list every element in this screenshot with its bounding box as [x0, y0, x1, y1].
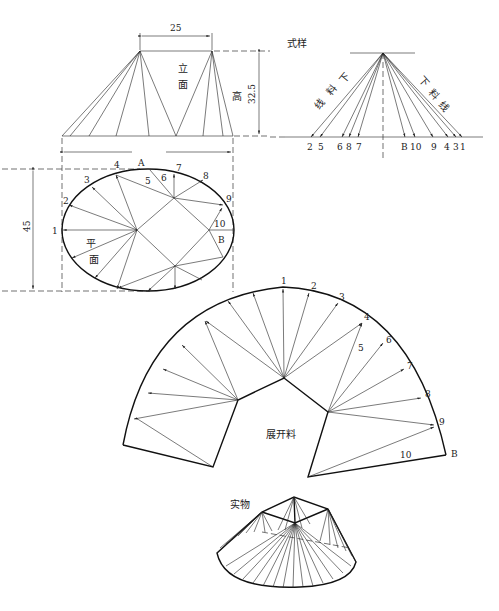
plan-title-2: 面: [89, 254, 99, 265]
svg-text:6: 6: [337, 142, 343, 152]
svg-text:4: 4: [364, 312, 370, 322]
development-pattern: 1 2 3 4 5 6 7 8 9 10 B 展开料: [123, 276, 458, 477]
svg-text:5: 5: [318, 142, 324, 152]
dim-height: 32.5: [247, 84, 257, 104]
svg-text:2: 2: [311, 281, 317, 291]
svg-text:1: 1: [460, 142, 466, 152]
svg-text:10: 10: [400, 450, 412, 460]
svg-text:6: 6: [386, 335, 392, 345]
svg-text:B: B: [401, 142, 408, 152]
plan-title-1: 平: [86, 238, 96, 249]
svg-text:8: 8: [425, 389, 431, 399]
plan-point-labels: 1 2 3 4 A 5 6 7 8 9 10 B: [52, 158, 232, 245]
true-length-title: 式样: [287, 37, 307, 49]
svg-text:8: 8: [346, 142, 352, 152]
right-cut-label-1: 下: [417, 74, 432, 89]
svg-text:9: 9: [431, 142, 437, 152]
svg-text:7: 7: [176, 163, 182, 173]
sheet-metal-development-drawing: 25 32.5 立 面 高 式样: [0, 0, 499, 611]
left-cut-label-1: 下: [337, 71, 352, 86]
svg-text:8: 8: [203, 171, 209, 181]
development-title: 展开料: [266, 428, 296, 440]
true-length-diagram: 式样 下 料 线 下 料 线 2 5 6 8 7 B: [270, 37, 483, 160]
svg-text:B: B: [218, 235, 225, 245]
svg-text:2: 2: [63, 196, 69, 206]
object-title: 实物: [230, 498, 250, 510]
left-cut-label-2: 料: [323, 82, 339, 97]
object-3d-view: 实物: [217, 497, 356, 588]
svg-text:1: 1: [52, 226, 58, 236]
svg-text:5: 5: [145, 176, 151, 186]
svg-text:10: 10: [214, 219, 226, 229]
height-label: 高: [232, 90, 242, 102]
svg-text:B: B: [451, 449, 458, 459]
svg-text:10: 10: [410, 142, 422, 152]
svg-text:A: A: [137, 158, 145, 168]
right-cut-label-3: 线: [437, 98, 453, 113]
right-cut-label-2: 料: [427, 86, 443, 101]
dim-depth: 45: [22, 220, 32, 232]
svg-text:6: 6: [161, 173, 167, 183]
svg-text:1: 1: [281, 276, 287, 286]
elevation-view: 25 32.5 立 面 高: [62, 23, 270, 292]
elevation-title-2: 面: [178, 79, 188, 90]
svg-text:9: 9: [439, 417, 445, 427]
svg-text:5: 5: [358, 343, 364, 353]
svg-text:7: 7: [407, 361, 413, 371]
svg-text:3: 3: [453, 142, 459, 152]
plan-view: 45: [2, 158, 234, 291]
svg-text:7: 7: [356, 142, 362, 152]
svg-text:4: 4: [114, 160, 120, 170]
svg-text:3: 3: [339, 292, 345, 302]
dim-top-width: 25: [170, 23, 182, 33]
svg-text:2: 2: [307, 142, 313, 152]
elevation-title-1: 立: [178, 62, 188, 74]
svg-text:4: 4: [444, 142, 450, 152]
left-cut-label-3: 线: [311, 96, 327, 111]
svg-text:9: 9: [226, 194, 232, 204]
svg-text:3: 3: [84, 175, 90, 185]
true-length-point-labels: 2 5 6 8 7 B 10 9 4 3 1: [307, 142, 466, 152]
development-point-labels: 1 2 3 4 5 6 7 8 9 10 B: [281, 276, 458, 460]
